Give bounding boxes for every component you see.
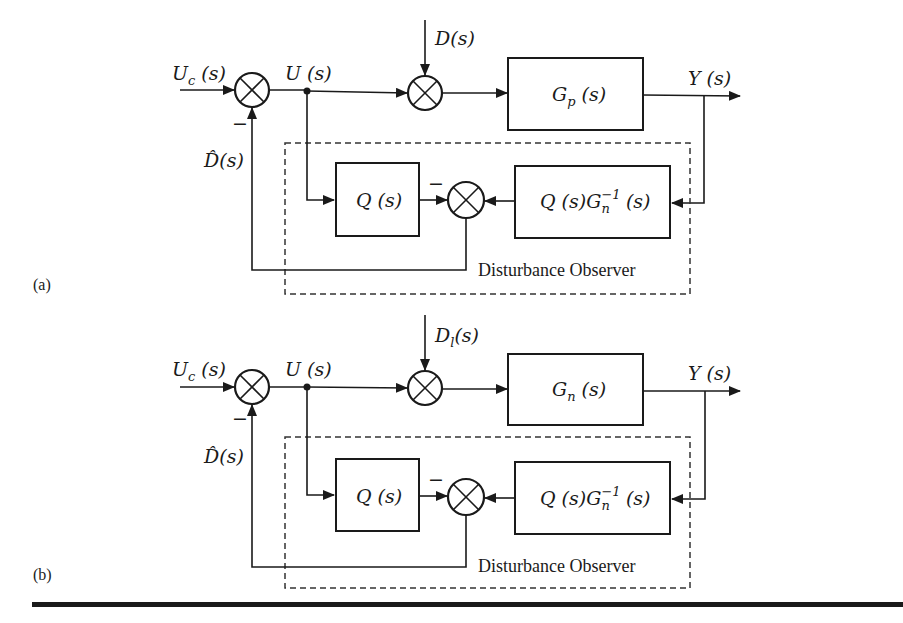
- control-to-disturbance-wire: [307, 91, 407, 93]
- inverse-block-label: Q (s)G−1n (s): [540, 484, 651, 513]
- output-label: Y (s): [688, 67, 731, 89]
- input-label: Uc (s): [172, 62, 226, 88]
- disturbance-label: D(s): [434, 27, 475, 49]
- minus-sign-input: −: [232, 407, 248, 429]
- input-label: Uc (s): [172, 358, 226, 384]
- estimate-label: D̂(s): [203, 149, 244, 171]
- control-branch-wire: [307, 387, 334, 495]
- output-feedback-wire: [672, 96, 704, 203]
- output-feedback-wire: [672, 391, 705, 499]
- summing-junction-disturbance: [408, 76, 442, 110]
- panel-tag-a: (a): [33, 276, 51, 294]
- summing-junction-disturbance: [408, 371, 442, 405]
- summing-junction-input: [235, 370, 269, 404]
- q-block-label: Q (s): [356, 485, 402, 507]
- minus-sign-observer: −: [428, 172, 444, 194]
- output-signal-wire: [643, 95, 740, 96]
- summing-junction-observer: [448, 182, 484, 218]
- summing-junction-observer: [448, 479, 484, 515]
- control-to-disturbance-wire: [307, 387, 407, 388]
- observer-label: Disturbance Observer: [478, 260, 635, 280]
- control-branch-wire: [307, 91, 334, 200]
- panel-tag-b: (b): [33, 566, 52, 584]
- disturbance-label: Dl(s): [434, 324, 479, 350]
- estimate-label: D̂(s): [203, 445, 244, 467]
- minus-sign-observer: −: [428, 468, 444, 490]
- panel-a: [180, 20, 740, 294]
- q-block-label: Q (s): [356, 189, 402, 211]
- panel-b: [180, 315, 740, 588]
- figure-bottom-rule: [32, 602, 903, 607]
- control-label: U (s): [285, 62, 332, 84]
- control-label: U (s): [285, 358, 332, 380]
- disturbance-observer-figure: Uc (s) U (s) D(s) Gp (s) Y (s) − D̂(s) Q…: [0, 0, 903, 623]
- observer-label: Disturbance Observer: [478, 556, 635, 576]
- summing-junction-input: [235, 73, 269, 107]
- inverse-block-label: Q (s)G−1n (s): [540, 187, 651, 216]
- minus-sign-input: −: [232, 112, 248, 134]
- output-label: Y (s): [688, 362, 731, 384]
